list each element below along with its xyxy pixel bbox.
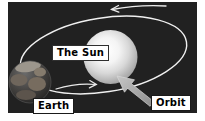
solar-orbit-diagram: The Sun Earth Orbit — [0, 0, 205, 121]
sun-label: The Sun — [52, 45, 109, 61]
orbit-label: Orbit — [151, 95, 191, 111]
earth-label: Earth — [33, 98, 74, 114]
